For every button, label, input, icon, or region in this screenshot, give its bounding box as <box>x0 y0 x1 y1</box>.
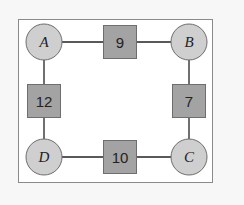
node-label-a: A <box>38 34 49 50</box>
node-label-c: C <box>184 149 195 165</box>
node-label-d: D <box>38 149 50 165</box>
weight-d-c: 10 <box>104 141 137 174</box>
weight-b-c: 7 <box>173 85 206 118</box>
node-a: A <box>26 24 62 60</box>
weight-a-b: 9 <box>104 26 137 59</box>
weight-label-a-b: 9 <box>116 34 124 51</box>
weight-label-a-d: 12 <box>36 93 53 110</box>
weight-a-d: 12 <box>28 85 61 118</box>
graph-diagram: 9 7 10 12 A B C D <box>0 0 244 205</box>
weight-label-d-c: 10 <box>112 149 129 166</box>
weight-label-b-c: 7 <box>185 93 193 110</box>
node-label-b: B <box>184 34 193 50</box>
node-b: B <box>171 24 207 60</box>
node-c: C <box>171 139 207 175</box>
node-d: D <box>26 139 62 175</box>
